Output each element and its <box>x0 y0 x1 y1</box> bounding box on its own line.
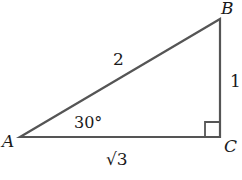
triangle-abc <box>20 19 220 137</box>
angle-label-a: 30° <box>74 113 102 132</box>
right-angle-marker <box>205 122 220 137</box>
side-label-bc: 1 <box>230 71 241 91</box>
vertex-label-c: C <box>224 136 237 156</box>
vertex-label-a: A <box>0 131 14 151</box>
triangle-diagram: A B C 2 1 √3 30° <box>0 0 242 180</box>
vertex-label-b: B <box>220 0 234 18</box>
side-label-ac: √3 <box>106 149 128 169</box>
side-label-ab: 2 <box>113 49 124 69</box>
